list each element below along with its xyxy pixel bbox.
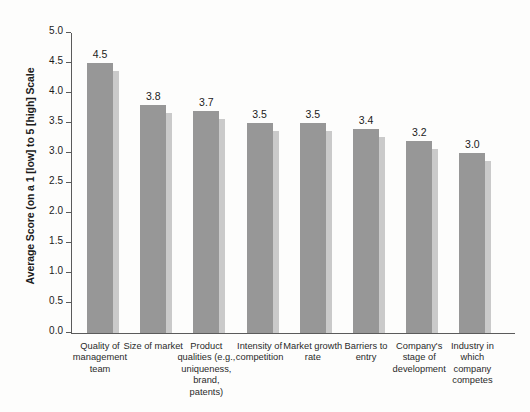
x-axis-category-label: Company'sstage ofdevelopment <box>389 341 449 375</box>
bar-value-label: 3.5 <box>294 108 332 120</box>
category-label-line: Company's <box>389 341 449 352</box>
y-axis-tick: 0.5 <box>66 302 71 303</box>
category-label-line: entry <box>336 352 396 363</box>
y-axis-tick: 2.5 <box>66 182 71 183</box>
y-axis-title: Average Score (on a 1 [low] to 5 [high] … <box>24 26 40 326</box>
x-axis-category-label: Industry inwhichcompanycompetes <box>442 341 502 387</box>
y-axis-tick: 5.0 <box>66 32 71 33</box>
y-axis-tick-label: 4.5 <box>49 55 63 66</box>
x-axis-category-label: Size of market <box>123 341 183 352</box>
x-axis-category-label: Productqualities (e.g.,uniqueness,brand,… <box>176 341 236 398</box>
bar-value-label: 4.5 <box>81 48 119 60</box>
y-axis-tick: 4.0 <box>66 92 71 93</box>
bar-value-label: 3.2 <box>400 126 438 138</box>
category-label-line: which <box>442 352 502 363</box>
category-label-line: Industry in <box>442 341 502 352</box>
bar-group[interactable]: 3.4 <box>353 129 385 333</box>
category-label-line: Market growth <box>283 341 343 352</box>
y-axis-tick-label: 0.5 <box>49 295 63 306</box>
bar-value-label: 3.5 <box>241 108 279 120</box>
x-axis-category-label: Intensity ofcompetition <box>230 341 290 364</box>
x-axis-category-label: Market growthrate <box>283 341 343 364</box>
category-label-line: company <box>442 364 502 375</box>
bar-group[interactable]: 3.5 <box>247 123 279 333</box>
y-axis-tick-label: 3.5 <box>49 115 63 126</box>
bar-value-label: 3.8 <box>134 90 172 102</box>
bar[interactable] <box>247 123 273 333</box>
category-label-line: qualities (e.g., <box>176 352 236 363</box>
category-label-line: Product <box>176 341 236 352</box>
y-axis-tick: 1.0 <box>66 272 71 273</box>
bar-group[interactable]: 3.0 <box>459 153 491 333</box>
y-axis-tick-label: 3.0 <box>49 145 63 156</box>
bar-shadow <box>166 113 172 333</box>
bar-shadow <box>219 119 225 333</box>
y-axis-tick: 0.0 <box>66 332 71 333</box>
y-axis-tick-label: 4.0 <box>49 85 63 96</box>
bar-value-label: 3.4 <box>347 114 385 126</box>
category-label-line: Size of market <box>123 341 183 352</box>
category-label-line: brand, patents) <box>176 375 236 398</box>
bar[interactable] <box>406 141 432 333</box>
bar-value-label: 3.7 <box>187 96 225 108</box>
category-label-line: rate <box>283 352 343 363</box>
category-label-line: Intensity of <box>230 341 290 352</box>
x-axis-line <box>71 333 515 334</box>
bar-shadow <box>326 131 332 333</box>
y-axis-tick-label: 1.5 <box>49 235 63 246</box>
category-label-line: management <box>70 352 130 363</box>
bar-value-label: 3.0 <box>453 138 491 150</box>
category-label-line: stage of <box>389 352 449 363</box>
y-axis-tick-label: 0.0 <box>49 325 63 336</box>
bar-shadow <box>432 149 438 333</box>
y-axis-tick: 3.0 <box>66 152 71 153</box>
bar-group[interactable]: 4.5 <box>87 63 119 333</box>
y-axis-tick-label: 1.0 <box>49 265 63 276</box>
y-axis-tick-label: 2.5 <box>49 175 63 186</box>
bar-group[interactable]: 3.8 <box>140 105 172 333</box>
category-label-line: competition <box>230 352 290 363</box>
bar-shadow <box>113 71 119 333</box>
y-axis-tick: 3.5 <box>66 122 71 123</box>
bar-group[interactable]: 3.5 <box>300 123 332 333</box>
category-label-line: development <box>389 364 449 375</box>
y-axis-line <box>71 33 72 334</box>
bar-shadow <box>485 161 491 333</box>
chart-page: Average Score (on a 1 [low] to 5 [high] … <box>0 0 530 412</box>
bar[interactable] <box>87 63 113 333</box>
x-axis-category-label: Barriers toentry <box>336 341 396 364</box>
y-axis-tick: 1.5 <box>66 242 71 243</box>
bar[interactable] <box>459 153 485 333</box>
bar-shadow <box>379 137 385 333</box>
bar[interactable] <box>300 123 326 333</box>
bar-group[interactable]: 3.7 <box>193 111 225 333</box>
y-axis-tick: 2.0 <box>66 212 71 213</box>
bar[interactable] <box>140 105 166 333</box>
category-label-line: team <box>70 364 130 375</box>
bar[interactable] <box>353 129 379 333</box>
bar-group[interactable]: 3.2 <box>406 141 438 333</box>
bar-shadow <box>273 131 279 333</box>
category-label-line: Barriers to <box>336 341 396 352</box>
x-axis-category-label: Quality ofmanagementteam <box>70 341 130 375</box>
category-label-line: Quality of <box>70 341 130 352</box>
y-axis-tick-label: 5.0 <box>49 25 63 36</box>
category-label-line: uniqueness, <box>176 364 236 375</box>
y-axis-tick-label: 2.0 <box>49 205 63 216</box>
bar[interactable] <box>193 111 219 333</box>
category-label-line: competes <box>442 375 502 386</box>
plot-area: 0.00.51.01.52.02.53.03.54.04.55.0 4.53.8… <box>71 33 515 333</box>
y-axis-tick: 4.5 <box>66 62 71 63</box>
